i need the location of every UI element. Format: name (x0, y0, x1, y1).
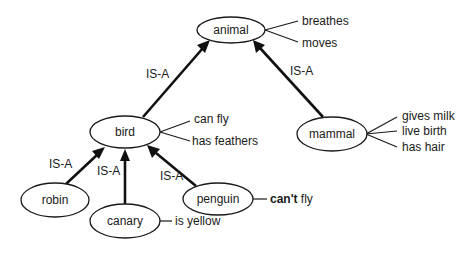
edge-label-bird-animal: IS-A (146, 67, 169, 81)
attr-live-birth: live birth (402, 124, 447, 138)
attributes-bird: can fly has feathers (160, 112, 258, 148)
edge-mammal-animal: IS-A (253, 40, 323, 117)
edge-label-penguin-bird: IS-A (160, 169, 183, 183)
edge-label-robin-bird: IS-A (49, 157, 72, 171)
node-label-penguin: penguin (197, 192, 240, 206)
attributes-animal: breathes moves (265, 14, 349, 50)
attr-breathes: breathes (302, 14, 349, 28)
edge-label-canary-bird: IS-A (97, 164, 120, 178)
node-penguin: penguin (183, 183, 253, 215)
attr-gives-milk: gives milk (402, 109, 456, 123)
edge-label-mammal-animal: IS-A (290, 64, 313, 78)
semantic-network-diagram: IS-A IS-A IS-A IS-A IS-A breathes moves … (0, 0, 472, 253)
attr-cant-fly: can't fly (270, 192, 313, 206)
attr-can-fly: can fly (194, 112, 229, 126)
edge-bird-animal: IS-A (143, 40, 210, 117)
node-label-bird: bird (115, 125, 135, 139)
edge-penguin-bird: IS-A (147, 145, 196, 186)
node-label-animal: animal (213, 23, 248, 37)
attr-cant-fly-bold: can't (270, 192, 298, 206)
node-mammal: mammal (297, 117, 367, 151)
node-canary: canary (90, 204, 160, 238)
attributes-penguin: can't fly (253, 192, 313, 206)
attr-moves: moves (302, 36, 337, 50)
arrowhead-icon (120, 149, 130, 161)
node-animal: animal (197, 17, 265, 43)
node-bird: bird (90, 116, 160, 148)
node-label-robin: robin (42, 193, 69, 207)
attr-cant-fly-rest: fly (298, 192, 313, 206)
attr-has-hair: has hair (402, 140, 445, 154)
node-robin: robin (21, 183, 89, 217)
attr-has-feathers: has feathers (192, 134, 258, 148)
attr-is-yellow: is yellow (175, 214, 221, 228)
node-label-mammal: mammal (309, 127, 355, 141)
attributes-canary: is yellow (160, 214, 221, 228)
node-label-canary: canary (107, 214, 143, 228)
edge-canary-bird: IS-A (97, 149, 130, 204)
attributes-mammal: gives milk live birth has hair (366, 109, 456, 154)
